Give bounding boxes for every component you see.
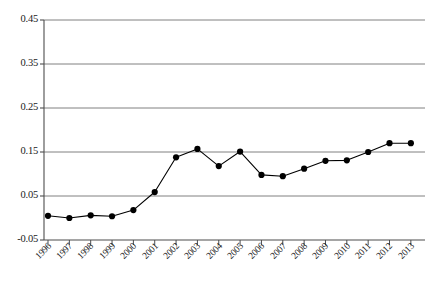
y-tick-label: 0.05 — [20, 189, 38, 200]
data-point-marker — [258, 172, 264, 178]
data-point-marker — [280, 173, 286, 179]
data-point-marker — [173, 154, 179, 160]
y-tick-label: 0.25 — [20, 101, 38, 112]
data-line-series-1 — [48, 143, 411, 218]
data-point-marker — [88, 212, 94, 218]
line-chart: 0.450.350.250.150.05-0.05 19961997199819… — [0, 0, 436, 284]
data-point-marker — [109, 213, 115, 219]
data-point-marker — [194, 146, 200, 152]
data-point-marker — [386, 140, 392, 146]
y-tick-label: 0.15 — [20, 145, 38, 156]
y-tick-label: 0.35 — [20, 57, 38, 68]
data-point-marker — [237, 148, 243, 154]
data-point-marker — [152, 189, 158, 195]
data-point-marker — [66, 215, 72, 221]
data-point-marker — [365, 149, 371, 155]
data-point-marker — [408, 140, 414, 146]
y-tick-label: 0.45 — [20, 13, 38, 24]
data-point-marker — [130, 207, 136, 213]
data-point-marker — [216, 163, 222, 169]
data-point-marker — [344, 157, 350, 163]
data-point-marker — [322, 158, 328, 164]
data-point-marker — [301, 166, 307, 172]
data-point-marker — [45, 213, 51, 219]
y-tick-label: -0.05 — [17, 233, 38, 244]
